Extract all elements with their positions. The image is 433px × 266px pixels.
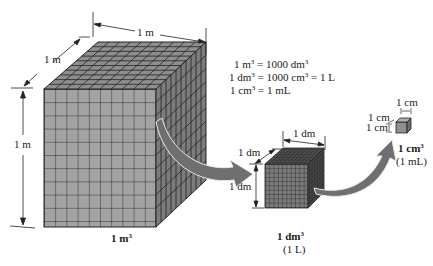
medium-cube-depth-label: 1 dm [238, 146, 260, 158]
small-cube-width-label: 1 cm [396, 96, 418, 108]
small-cube [396, 118, 411, 133]
diagram-graphics [0, 0, 433, 266]
large-cube-width-label: 1 m [137, 26, 154, 38]
medium-cube [265, 148, 324, 208]
small-cube-caption: 1 cm3 [398, 142, 424, 154]
medium-cube-subcaption: (1 L) [283, 243, 305, 255]
equation-dm3-to-cm3-liter: 1 dm3 = 1000 cm3 = 1 L [229, 71, 335, 84]
curved-arrow-medium-to-small [314, 140, 396, 196]
equation-m3-to-dm3: 1 m3 = 1000 dm3 [234, 58, 308, 71]
large-cube [44, 42, 206, 227]
large-cube-height-label: 1 m [14, 138, 31, 150]
volume-units-diagram: 1 m3 = 1000 dm3 1 dm3 = 1000 cm3 = 1 L 1… [0, 0, 433, 266]
small-cube-subcaption: (1 mL) [396, 155, 427, 167]
equation-cm3-to-ml: 1 cm3 = 1 mL [230, 84, 290, 97]
small-cube-height-label: 1 cm [366, 121, 388, 133]
large-cube-depth-label: 1 m [44, 53, 61, 65]
medium-cube-width-label: 1 dm [293, 127, 315, 139]
large-cube-caption: 1 m3 [111, 232, 132, 244]
medium-cube-caption: 1 dm3 [277, 230, 304, 242]
medium-cube-height-label: 1 dm [229, 180, 251, 192]
